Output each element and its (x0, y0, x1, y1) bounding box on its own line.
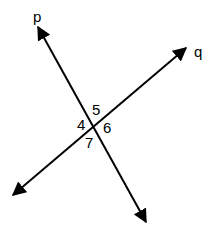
angle-6-label: 6 (103, 119, 111, 136)
line-p-label: p (33, 8, 41, 25)
line-p (38, 27, 146, 222)
diagram-canvas: p q 5 4 6 7 (0, 0, 211, 237)
angle-5-label: 5 (92, 101, 100, 118)
angle-7-label: 7 (85, 134, 93, 151)
line-q (13, 48, 186, 195)
diagram-svg: p q 5 4 6 7 (0, 0, 211, 237)
line-q-label: q (194, 43, 202, 60)
angle-4-label: 4 (77, 116, 85, 133)
